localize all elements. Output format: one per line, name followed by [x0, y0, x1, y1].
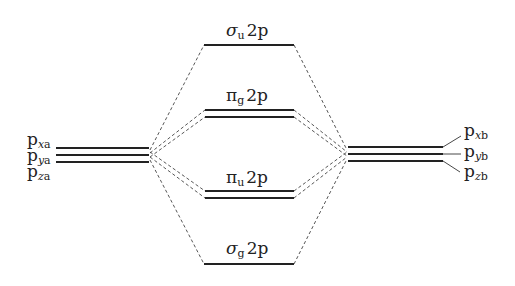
- dash-right-sigma-u: [294, 45, 347, 150]
- dash-left-sigma-g: [150, 160, 204, 264]
- mo-sigma-g-2p: σg2p: [204, 238, 294, 264]
- label-sigma-u: σu2p: [226, 20, 269, 42]
- dash-right-pi-g-1: [294, 110, 347, 152]
- label-pzb: pzb: [464, 161, 488, 183]
- mo-sigma-u-2p: σu2p: [204, 20, 294, 45]
- label-pyb: pyb: [464, 141, 488, 163]
- label-sigma-g: σg2p: [226, 238, 268, 260]
- dash-left-pi-u-2: [150, 157, 205, 198]
- label-pxb: pxb: [464, 120, 488, 142]
- leader-pzb: [443, 161, 460, 172]
- dash-right-sigma-g: [294, 159, 347, 264]
- right-atomic-orbitals: pxb pyb pzb: [348, 120, 488, 183]
- label-pi-u: πu2p: [226, 167, 268, 189]
- dash-left-pi-u-1: [150, 152, 205, 191]
- mo-diagram: pxa pya pza pxb pyb pzb σu2p: [0, 0, 515, 286]
- dash-left-sigma-u: [150, 45, 204, 150]
- correlation-lines: [150, 45, 347, 264]
- mo-pi-u-2p: πu2p: [205, 167, 294, 198]
- mo-pi-g-2p: πg2p: [205, 85, 294, 117]
- dash-right-pi-u-1: [294, 152, 347, 191]
- dash-right-pi-u-2: [294, 157, 347, 198]
- dash-right-pi-g-2: [294, 117, 347, 156]
- left-atomic-orbitals: pxa pya pza: [27, 129, 149, 183]
- label-pi-g: πg2p: [226, 85, 268, 107]
- dash-left-pi-g-1: [150, 110, 205, 153]
- dash-left-pi-g-2: [150, 117, 205, 157]
- leader-pxb: [443, 136, 461, 147]
